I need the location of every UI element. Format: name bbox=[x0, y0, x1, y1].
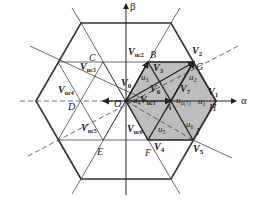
point-a: A bbox=[165, 102, 172, 112]
point-g: G bbox=[196, 61, 203, 72]
point-c: C bbox=[89, 52, 96, 63]
beta-label: β bbox=[130, 0, 136, 12]
point-f: F bbox=[144, 147, 152, 158]
point-b: B bbox=[150, 49, 156, 60]
label-vuc2: Vuc2 bbox=[128, 46, 144, 58]
label-v5: V5 bbox=[193, 143, 204, 156]
alpha-label: α bbox=[241, 94, 247, 106]
point-d: D bbox=[67, 101, 76, 112]
point-i: I bbox=[195, 126, 200, 137]
point-h: H bbox=[208, 102, 217, 113]
origin-dot bbox=[124, 99, 128, 103]
point-o: O bbox=[114, 98, 121, 109]
label-v2: V2 bbox=[192, 45, 203, 58]
point-e: E bbox=[96, 146, 103, 157]
space-vector-hexagon-diagram: β α O A B C D E F G H I V2 V1 V3 V6 V7 V… bbox=[0, 0, 259, 202]
